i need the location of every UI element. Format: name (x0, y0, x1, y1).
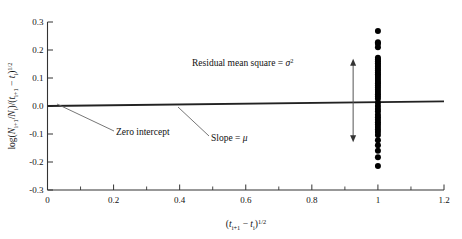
ylab-close: )/( (7, 100, 18, 109)
x-tick-label: 0.8 (306, 195, 318, 205)
y-tick-label: 0.3 (32, 17, 44, 27)
xlab-tsub1: i+1 (232, 224, 241, 231)
plot-background (0, 0, 462, 239)
data-point (375, 44, 381, 50)
data-point (375, 163, 381, 169)
xlab-minus: − (240, 219, 250, 229)
data-point (375, 154, 381, 160)
y-tick-label: 0.2 (32, 45, 43, 55)
annotation-slope: Slope = μ (211, 133, 248, 143)
x-tick-label: 0.4 (174, 195, 186, 205)
y-tick-label: -0.1 (29, 129, 43, 139)
annotation-residual-text: Residual mean square = (192, 58, 285, 68)
x-tick-label: 0.6 (240, 195, 252, 205)
data-point (375, 28, 381, 34)
ylab-log: log( (7, 134, 18, 149)
data-point (375, 148, 381, 154)
xlab-exp: 1/2 (258, 218, 266, 225)
x-tick-label: 1 (376, 195, 381, 205)
x-tick-label: 1.2 (438, 195, 449, 205)
ylab-exp: 1/2 (6, 62, 13, 70)
y-tick-label: -0.2 (29, 157, 43, 167)
annotation-zero-intercept: Zero intercept (116, 127, 170, 137)
x-tick-label: 0.2 (108, 195, 119, 205)
mu-symbol: μ (242, 133, 248, 143)
sigma-exponent: 2 (290, 57, 293, 64)
ylab-minus: − (7, 78, 17, 88)
chart-canvas: 00.20.40.60.811.2 0.30.20.10.0-0.1-0.2-0… (0, 0, 462, 239)
y-tick-label: 0.1 (32, 73, 43, 83)
ylab-tsub1: i+1 (12, 88, 19, 97)
annotation-slope-text: Slope = (211, 133, 243, 143)
y-tick-label: -0.3 (29, 185, 44, 195)
x-tick-label: 0 (45, 195, 50, 205)
y-tick-label: 0.0 (32, 101, 44, 111)
ylab-sub1: i+1 (12, 119, 19, 128)
annotation-residual-mean-square: Residual mean square = σ2 (192, 57, 293, 68)
data-point (375, 142, 381, 148)
scatter-plot-svg: 00.20.40.60.811.2 0.30.20.10.0-0.1-0.2-0… (0, 0, 462, 239)
